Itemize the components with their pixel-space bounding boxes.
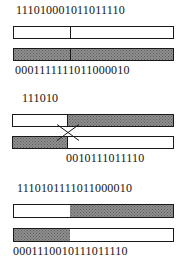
child-a-segment-right xyxy=(70,205,173,217)
child-b-segment-left xyxy=(14,229,70,241)
crossover-x-lines-icon xyxy=(56,124,80,141)
crossover-top-right-bar xyxy=(67,114,174,127)
parent-b-bitstring-label: 0001111111011000010 xyxy=(15,64,130,77)
crossover-bottom-bitstring-label: 0010111011110 xyxy=(66,152,144,165)
crossover-panel: 111010 0010111011110 xyxy=(0,88,187,170)
parent-a-chromosome-bar xyxy=(13,26,174,39)
child-a-bitstring-label: 1110101111011000010 xyxy=(17,182,132,195)
offspring-panel: 1110101111011000010 0001110010111011110 xyxy=(0,178,187,273)
child-b-chromosome-bar xyxy=(13,228,174,242)
crossover-bottom-right-segment xyxy=(68,137,173,148)
parent-b-chromosome-bar xyxy=(13,48,174,61)
parent-b-segment-left xyxy=(14,49,70,60)
parents-panel: 111010001011011110 0001111111011000010 xyxy=(0,0,187,84)
parent-b-segment-right xyxy=(70,49,173,60)
parent-a-bitstring-label: 111010001011011110 xyxy=(16,4,125,17)
crossover-bottom-right-bar xyxy=(67,136,174,149)
parent-a-segment-left xyxy=(14,27,70,38)
child-b-bitstring-label: 0001110010111011110 xyxy=(13,245,128,258)
child-a-chromosome-bar xyxy=(13,204,174,218)
parent-a-segment-right xyxy=(70,27,173,38)
crossover-top-right-segment xyxy=(68,115,173,126)
child-b-segment-right xyxy=(70,229,173,241)
crossover-top-bitstring-label: 111010 xyxy=(22,92,58,105)
child-a-segment-left xyxy=(14,205,70,217)
